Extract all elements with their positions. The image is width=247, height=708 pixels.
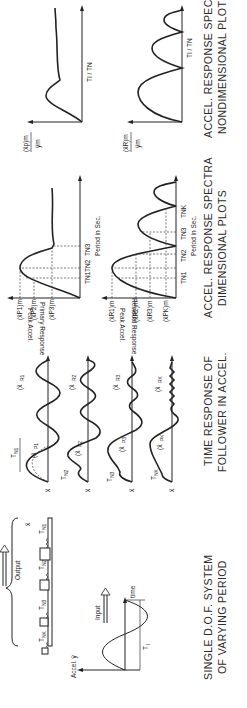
caption-time-response-line1: TIME RESPONSE OF — [202, 356, 214, 466]
svg-text:N3: N3 — [41, 599, 47, 606]
svg-text:TN1: TN1 — [180, 271, 187, 284]
dimensional-spectra-panel: Peak Accel. Primary Response (ẍP1)m (ẍP2… — [7, 157, 228, 356]
svg-text:ÿm: ÿm — [134, 139, 142, 148]
svg-text:(ẍp)m: (ẍp)m — [22, 135, 30, 152]
svg-text:NK: NK — [41, 630, 47, 638]
svg-text:R3: R3 — [115, 374, 121, 381]
svg-text:N3: N3 — [109, 471, 115, 478]
svg-text:Period in Sec.: Period in Sec. — [190, 215, 197, 256]
time-trace-1: ẍ T N1 (ẍ P1 (ẍ R1 — [10, 355, 60, 492]
svg-text:ẍ: ẍ — [168, 488, 175, 492]
output-label: Output — [14, 560, 22, 580]
svg-text:PK: PK — [159, 434, 165, 441]
input-arrow: Input — [94, 588, 110, 623]
caption-nondimensional-line2: NONDIMENSIONAL PLOTS — [216, 0, 228, 134]
svg-text:ẍ: ẍ — [24, 522, 31, 526]
svg-text:TI / TN: TI / TN — [86, 62, 93, 82]
nondim-primary-plot: (ẍp)m ÿm TI / TN — [22, 5, 93, 152]
primary-ylabel-2: Primary Response — [38, 302, 46, 356]
svg-text:P3: P3 — [121, 437, 127, 443]
output-brace: Output ẍ — [0, 518, 31, 646]
time-response-panel: ẍ T N1 (ẍ P1 (ẍ R1 ẍ T N2 (ẍ P2 (ẍ R2 — [10, 352, 228, 492]
pulse-duration-label: T — [142, 646, 149, 650]
primary-spectrum-plot: (ẍP1)m (ẍP2)m (ẍP3)m TN1 TN2 TN3 Period … — [7, 175, 101, 320]
svg-text:ẍ: ẍ — [84, 488, 91, 492]
svg-text:(ẍ: (ẍ — [30, 452, 38, 458]
svg-text:ẍ: ẍ — [128, 488, 135, 492]
svg-text:T: T — [38, 638, 45, 642]
svg-text:TNK: TNK — [180, 204, 187, 218]
svg-text:R2: R2 — [71, 374, 77, 381]
svg-text:ẍ: ẍ — [44, 488, 51, 492]
oscillator-k: T NK — [38, 630, 48, 654]
oscillator-2: T N2 — [38, 559, 49, 590]
time-trace-2: ẍ T N2 (ẍ P2 (ẍ R2 — [60, 355, 100, 492]
input-pulse-plot: T I Accel. ÿ time — [70, 585, 151, 678]
svg-text:(ẍPK)m: (ẍPK)m — [162, 300, 170, 322]
svg-text:(ẍ: (ẍ — [112, 384, 120, 390]
caption-sdof-line2: OF VARYING PERIOD — [216, 560, 228, 674]
svg-text:N1: N1 — [41, 523, 47, 530]
svg-text:(ẍ: (ẍ — [68, 384, 76, 390]
svg-text:T: T — [38, 530, 45, 534]
shock-spectra-figure: T I Accel. ÿ time Input T N1 T N2 — [0, 0, 247, 708]
residual-spectrum-plot: (ẍR1)m (ẍR2)m (ẍR3)m (ẍPK)m TN1 TN2 TN3 … — [101, 175, 197, 322]
svg-text:NK: NK — [153, 468, 159, 476]
svg-text:TI / TN: TI / TN — [186, 38, 193, 58]
svg-text:T: T — [150, 476, 157, 480]
svg-text:(ẍP3)m: (ẍP3)m — [48, 299, 56, 320]
svg-text:(ẍ: (ẍ — [16, 384, 24, 390]
svg-text:RK: RK — [157, 375, 163, 383]
svg-text:(ẍ: (ẍ — [118, 446, 126, 452]
accel-axis-label: Accel. ÿ — [70, 654, 78, 678]
svg-text:TN3: TN3 — [84, 243, 91, 256]
svg-text:(ẍP1)m: (ẍP1)m — [16, 299, 24, 320]
svg-text:TN1: TN1 — [84, 271, 91, 284]
time-axis-label: time — [129, 585, 136, 598]
svg-text:I: I — [145, 644, 151, 645]
svg-text:T: T — [10, 454, 17, 458]
svg-text:TN2: TN2 — [84, 259, 91, 272]
nondim-residual-plot: (ẍR)m ÿm TI / TN — [122, 5, 193, 152]
caption-dimensional-line1: ACCEL. RESPONSE SPECTRA — [202, 157, 214, 318]
svg-text:(ẍR1)m: (ẍR1)m — [108, 301, 116, 322]
caption-time-response-line2: FOLLOWER IN ACCEL. — [216, 352, 228, 472]
input-label: Input — [94, 605, 102, 620]
svg-text:Period in Sec.: Period in Sec. — [94, 215, 101, 256]
svg-text:T: T — [106, 478, 113, 482]
svg-text:TN3: TN3 — [180, 227, 187, 240]
svg-text:N2: N2 — [63, 469, 69, 476]
svg-text:(ẍR3)m: (ẍR3)m — [146, 301, 154, 322]
residual-ylabel-1: Peak Accel. — [119, 308, 126, 342]
oscillator-3: T N3 — [38, 599, 48, 626]
caption-nondimensional-line1: ACCEL. RESPONSE SPECTRA — [202, 0, 214, 138]
caption-sdof-line1: SINGLE D.O.F. SYSTEM — [202, 555, 214, 680]
time-trace-3: ẍ T N3 (ẍ P3 (ẍ R3 — [106, 355, 142, 492]
input-panel: T I Accel. ÿ time Input T N1 T N2 — [0, 518, 228, 680]
svg-text:(ẍ: (ẍ — [154, 386, 162, 392]
caption-dimensional-line2: DIMENSIONAL PLOTS — [216, 190, 228, 306]
svg-text:T: T — [38, 606, 45, 610]
svg-text:P1: P1 — [33, 443, 39, 449]
svg-text:(ẍ: (ẍ — [156, 444, 164, 450]
svg-text:ÿm: ÿm — [34, 139, 42, 148]
time-trace-k: ẍ T NK (ẍ PK (ẍ RK — [150, 355, 178, 492]
svg-text:T: T — [60, 476, 67, 480]
svg-text:R1: R1 — [19, 374, 25, 381]
svg-text:(ẍP2)m: (ẍP2)m — [30, 299, 38, 320]
svg-text:N2: N2 — [41, 559, 47, 566]
svg-text:P2: P2 — [77, 441, 83, 447]
svg-text:TN2: TN2 — [180, 249, 187, 262]
svg-text:N1: N1 — [13, 447, 19, 454]
svg-text:(ẍR2)m: (ẍR2)m — [132, 301, 140, 322]
svg-text:(ẍ: (ẍ — [74, 450, 82, 456]
svg-text:T: T — [38, 566, 45, 570]
svg-text:(ẍR)m: (ẍR)m — [122, 134, 130, 152]
nondimensional-spectra-panel: (ẍp)m ÿm TI / TN (ẍR)m ÿm TI / TN ACCEL.… — [22, 0, 228, 152]
